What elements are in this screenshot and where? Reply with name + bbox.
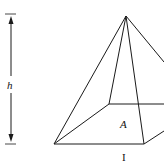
pyramid bbox=[54, 16, 164, 144]
height-label: h bbox=[7, 79, 13, 91]
base-right-edge bbox=[144, 131, 164, 144]
pyramid-diagram: h A I bbox=[0, 0, 164, 165]
lateral-edge-back-left bbox=[109, 16, 126, 104]
base-area-label: A bbox=[119, 118, 127, 130]
lateral-edge-front-left bbox=[54, 16, 126, 144]
base-back-left-edge bbox=[54, 104, 109, 144]
base-side-label: I bbox=[122, 151, 126, 163]
arrowhead-down-icon bbox=[9, 134, 14, 142]
arrowhead-up-icon bbox=[9, 16, 14, 24]
